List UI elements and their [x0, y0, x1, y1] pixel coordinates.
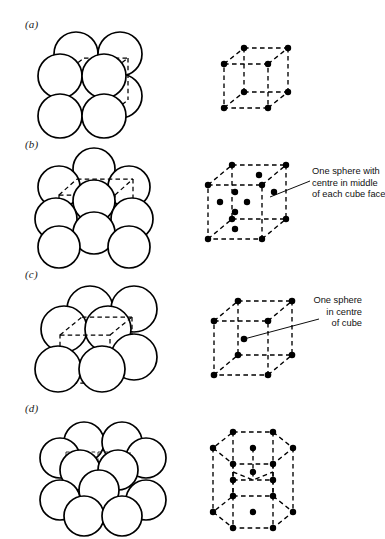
annotation-line-1: One sphere with: [312, 166, 385, 178]
annotation-line-2: in centre: [232, 307, 362, 319]
panel-body-centred-cubic: (c): [0, 265, 370, 400]
panel-label-d: (d): [25, 402, 38, 414]
packing-model-simple-cubic: [38, 28, 158, 136]
annotation-line-3: of cube: [232, 318, 362, 330]
annotation-line-3: of each cube face: [312, 189, 385, 201]
lattice-diagram-hexagonal-close-packed: [200, 426, 306, 534]
packing-model-hexagonal-close-packed: [36, 424, 158, 536]
annotation-face-centred: One sphere with centre in middle of each…: [312, 166, 385, 201]
packing-model-face-centred-cubic: [32, 149, 157, 267]
panel-label-a: (a): [25, 18, 38, 30]
lattice-face-centre-nodes: [217, 172, 277, 232]
annotation-body-centred: One sphere in centre of cube: [232, 295, 362, 330]
annotation-leader-line: [270, 181, 310, 197]
annotation-line-1: One sphere: [232, 295, 362, 307]
lattice-diagram-simple-cubic: [218, 42, 310, 122]
panel-label-c: (c): [25, 268, 38, 280]
panel-hexagonal-close-packed: (d): [0, 400, 370, 539]
panel-simple-cubic: (a): [0, 0, 370, 135]
panel-face-centred-cubic: (b): [0, 135, 370, 265]
packing-model-body-centred-cubic: [34, 285, 156, 397]
lattice-hexagon-bottom-nodes: [210, 493, 296, 531]
annotation-line-2: centre in middle: [312, 178, 385, 190]
lattice-hexagon-top-nodes: [210, 429, 296, 467]
lattice-corner-nodes: [221, 45, 291, 111]
